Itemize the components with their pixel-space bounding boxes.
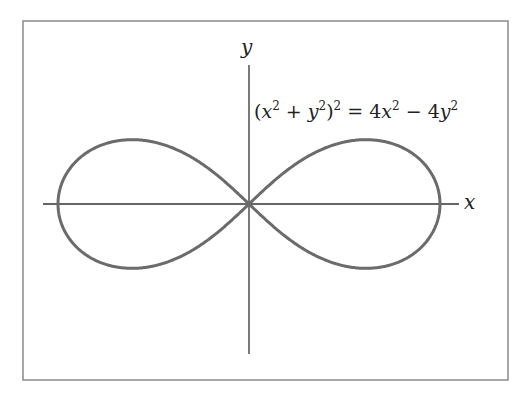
lemniscate-figure: x y (x2 + y2)2 = 4x2 − 4y2 <box>0 0 522 396</box>
figure-frame <box>23 21 508 380</box>
equation-label: (x2 + y2)2 = 4x2 − 4y2 <box>254 99 458 122</box>
y-axis-label: y <box>240 35 253 59</box>
x-axis-label: x <box>464 190 475 214</box>
